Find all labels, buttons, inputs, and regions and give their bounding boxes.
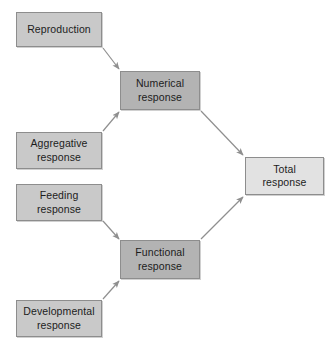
node-feeding-response[interactable]: Feeding response [16, 184, 102, 221]
node-functional-response[interactable]: Functional response [120, 240, 200, 279]
node-numerical-response[interactable]: Numerical response [120, 71, 200, 110]
node-developmental-response[interactable]: Developmental response [16, 300, 102, 337]
node-label-total-response: Total response [261, 163, 309, 189]
node-label-numerical-response: Numerical response [134, 77, 186, 103]
node-label-functional-response: Functional response [133, 246, 186, 272]
node-aggregative-response[interactable]: Aggregative response [16, 132, 102, 169]
flow-diagram: Reproduction Aggregative response Feedin… [0, 0, 335, 348]
node-label-reproduction: Reproduction [25, 23, 93, 36]
edge-functional-to-total [201, 197, 243, 239]
node-label-aggregative-response: Aggregative response [28, 137, 89, 163]
edge-feeding-to-functional [103, 221, 119, 239]
node-reproduction[interactable]: Reproduction [16, 12, 102, 47]
edge-developmental-to-functional [103, 281, 119, 299]
edge-reproduction-to-numerical [103, 48, 119, 69]
edge-aggregative-to-numerical [103, 112, 119, 131]
node-label-feeding-response: Feeding response [35, 189, 83, 215]
node-total-response[interactable]: Total response [245, 157, 324, 195]
node-label-developmental-response: Developmental response [21, 305, 96, 331]
edge-numerical-to-total [201, 111, 243, 155]
